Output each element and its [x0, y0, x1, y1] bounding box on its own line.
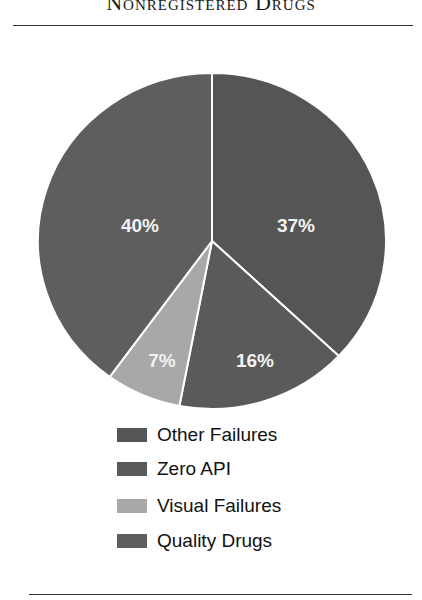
legend-item-quality-drugs: Quality Drugs [117, 531, 357, 551]
legend-swatch-icon [117, 499, 147, 513]
legend-swatch-icon [117, 534, 147, 548]
label-zero-api: 16% [236, 350, 274, 371]
legend-label: Visual Failures [157, 495, 281, 517]
legend-item-visual-failures: Visual Failures [117, 496, 357, 516]
pie-slices [38, 73, 386, 409]
legend-label: Other Failures [157, 424, 277, 446]
label-quality-drugs: 40% [121, 215, 159, 236]
legend-swatch-icon [117, 428, 147, 442]
bottom-divider [29, 594, 412, 595]
legend-label: Quality Drugs [157, 530, 272, 552]
legend-label: Zero API [157, 458, 231, 480]
legend-item-zero-api: Zero API [117, 459, 357, 479]
legend-swatch-icon [117, 462, 147, 476]
legend-item-other-failures: Other Failures [117, 425, 357, 445]
label-other-failures: 37% [277, 215, 315, 236]
label-visual-failures: 7% [148, 350, 176, 371]
